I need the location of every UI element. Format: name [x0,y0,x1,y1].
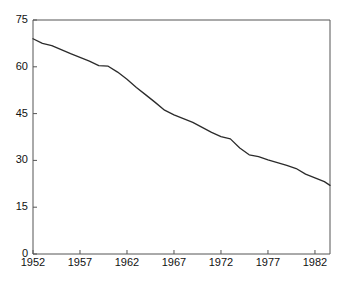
axis-frame [33,20,330,254]
data-series-line [33,39,330,186]
x-tick-label: 1952 [13,257,53,268]
line-chart: 01530456075 1952195719621967197219771982 [0,0,344,283]
chart-plot-area [0,0,344,283]
y-tick-label: 30 [2,154,28,165]
x-tick-label: 1962 [107,257,147,268]
x-tick-label: 1982 [295,257,335,268]
y-tick-label: 60 [2,61,28,72]
y-tick-label: 45 [2,108,28,119]
x-tick-label: 1967 [154,257,194,268]
y-tick-label: 15 [2,201,28,212]
y-axis-ticks [33,20,37,254]
x-tick-label: 1957 [60,257,100,268]
axis-lines [33,20,330,254]
x-axis-ticks [33,250,315,254]
x-tick-label: 1972 [201,257,241,268]
x-tick-label: 1977 [248,257,288,268]
y-tick-label: 75 [2,14,28,25]
